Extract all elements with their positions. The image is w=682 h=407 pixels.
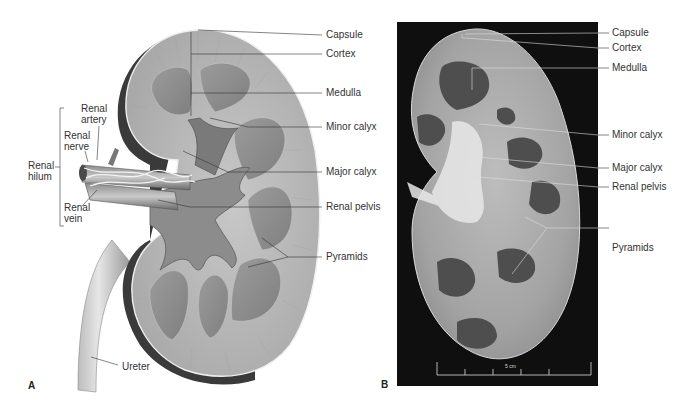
label-a-renal-artery-line2: artery (81, 114, 105, 126)
label-b-cortex: Cortex (612, 42, 641, 54)
label-a-pyramids: Pyramids (326, 251, 368, 263)
label-a-major-calyx: Major calyx (326, 166, 377, 178)
label-a-capsule: Capsule (326, 29, 363, 41)
label-b-medulla: Medulla (612, 62, 647, 74)
label-a-minor-calyx: Minor calyx (326, 121, 377, 133)
label-b-renal-pelvis: Renal pelvis (612, 181, 666, 193)
label-b-major-calyx: Major calyx (612, 162, 663, 174)
label-b-capsule: Capsule (612, 27, 649, 39)
kidney-specimen (397, 22, 598, 386)
label-a-renal-pelvis: Renal pelvis (326, 201, 380, 213)
scale-bar-label: 5 cm (505, 363, 516, 369)
label-a-renal-nerve-line2: nerve (64, 141, 89, 153)
kidney-photograph: 5 cm (397, 22, 598, 386)
label-b-pyramids: Pyramids (612, 242, 654, 254)
panel-letter-a: A (28, 380, 35, 391)
label-a-renal-hilum-line2: hilum (28, 171, 52, 183)
label-a-renal-vein-line2: vein (64, 213, 82, 225)
label-b-minor-calyx: Minor calyx (612, 129, 663, 141)
label-a-ureter: Ureter (122, 361, 150, 373)
panel-letter-b: B (381, 379, 388, 390)
label-a-medulla: Medulla (326, 87, 361, 99)
label-a-cortex: Cortex (326, 48, 355, 60)
